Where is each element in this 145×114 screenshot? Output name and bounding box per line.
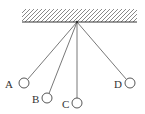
hatch-line <box>49 9 62 22</box>
hatch-line <box>57 9 70 22</box>
hatch-line <box>121 9 134 22</box>
label-c: C <box>62 98 69 110</box>
ceiling-hatch <box>22 9 137 22</box>
hatch-line <box>113 9 126 22</box>
pivot-point <box>76 21 78 23</box>
hatch-line <box>61 9 74 22</box>
string-d <box>77 22 127 80</box>
hatch-line <box>33 9 46 22</box>
hatch-line <box>77 9 90 22</box>
hatch-line <box>73 9 86 22</box>
string-b <box>49 22 77 94</box>
hatch-line <box>89 9 102 22</box>
bob-b <box>42 93 52 103</box>
label-a: A <box>5 78 13 90</box>
hatch-line <box>29 9 42 22</box>
bob-d <box>125 78 135 88</box>
ceiling <box>22 9 137 22</box>
hatch-line <box>109 9 122 22</box>
hatch-line <box>81 9 94 22</box>
pendulum-b: B <box>32 22 77 105</box>
hatch-line <box>129 14 137 22</box>
hatch-line <box>22 9 26 13</box>
string-a <box>28 22 78 80</box>
hatch-line <box>45 9 58 22</box>
hatch-line <box>105 9 118 22</box>
hatch-line <box>22 9 30 17</box>
hatch-line <box>25 9 38 22</box>
hatch-line <box>93 9 106 22</box>
pendulum-d: D <box>77 22 135 90</box>
bob-a <box>19 78 29 88</box>
hatch-line <box>65 9 78 22</box>
hatch-line <box>117 9 130 22</box>
bob-c <box>72 98 82 108</box>
hatch-line <box>69 9 82 22</box>
hatch-line <box>133 18 137 22</box>
hatch-line <box>41 9 54 22</box>
label-d: D <box>114 78 122 90</box>
hatch-line <box>101 9 114 22</box>
label-b: B <box>32 93 39 105</box>
hatch-line <box>97 9 110 22</box>
pendulum-diagram: A B C D <box>0 0 145 114</box>
hatch-line <box>37 9 50 22</box>
hatch-line <box>53 9 66 22</box>
pendulum-a: A <box>5 22 77 90</box>
hatch-line <box>85 9 98 22</box>
